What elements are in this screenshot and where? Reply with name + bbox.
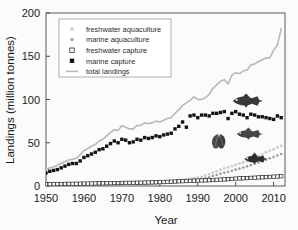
- y-axis-title: Landings (million tonnes): [4, 36, 16, 164]
- legend-label: marine capture: [86, 57, 135, 66]
- y-tick-label: 100: [22, 94, 40, 106]
- y-tick-label: 0: [34, 180, 40, 192]
- x-tick-label: 2000: [223, 192, 247, 204]
- y-tick-label: 50: [28, 137, 40, 149]
- landings-line-chart: 050100150200 195019601970198019902000201…: [0, 0, 298, 230]
- x-tick-label: 1950: [34, 192, 58, 204]
- legend-marker-light-dot: [70, 27, 74, 31]
- legend-marker-open-square: [70, 48, 74, 52]
- cod-fish-icon: [233, 93, 263, 107]
- legend-label: marine aquaculture: [86, 35, 149, 44]
- x-tick-label: 1970: [110, 192, 134, 204]
- legend-label: freshwater capture: [86, 46, 147, 55]
- y-tick-label: 150: [22, 50, 40, 62]
- chart-legend: freshwater aquaculturemarine aquaculture…: [59, 19, 171, 77]
- x-axis-title: Year: [154, 214, 177, 226]
- trout-fish-icon: [237, 127, 263, 139]
- y-tick-label: 200: [22, 7, 40, 19]
- x-tick-label: 2010: [261, 192, 285, 204]
- carp-fish-icon: [244, 153, 267, 165]
- legend-label: total landings: [86, 67, 130, 76]
- fish-annotation-layer: [212, 93, 268, 164]
- legend-label: freshwater aquaculture: [86, 25, 161, 34]
- shellfish-icon: [212, 134, 225, 149]
- legend-marker-filled-square: [70, 59, 74, 63]
- legend-marker-gray-dot: [70, 38, 73, 41]
- x-tick-label: 1960: [72, 192, 96, 204]
- x-tick-label: 1990: [186, 192, 210, 204]
- x-tick-label: 1980: [148, 192, 172, 204]
- chart-figure: 050100150200 195019601970198019902000201…: [0, 0, 298, 230]
